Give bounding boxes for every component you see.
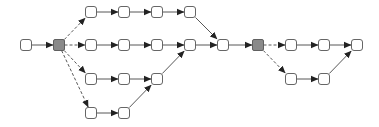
task-node-e3 (352, 40, 363, 51)
task-node-b1 (86, 40, 97, 51)
task-node-m1 (218, 40, 229, 51)
edges-layer (32, 12, 352, 113)
task-node-a1 (86, 7, 97, 18)
task-node-n0 (21, 40, 32, 51)
edge-d2-to-c3 (129, 85, 151, 108)
task-node-e2 (319, 40, 330, 51)
task-node-b3 (152, 40, 163, 51)
diagram-canvas (0, 0, 379, 127)
task-node-a3 (152, 7, 163, 18)
task-node-a4 (185, 7, 196, 18)
task-node-b4 (185, 40, 196, 51)
edge-c3-to-b4 (162, 51, 184, 74)
nodes-layer (21, 7, 363, 119)
edge-g2-to-f1 (263, 51, 285, 74)
task-node-d2 (119, 108, 130, 119)
process-graph (0, 0, 379, 127)
task-node-c1 (86, 74, 97, 85)
task-node-a2 (119, 7, 130, 18)
edge-f2-to-e3 (329, 51, 351, 74)
task-node-f1 (286, 74, 297, 85)
edge-a4-to-m1 (196, 18, 218, 40)
gateway-node-g2 (253, 40, 264, 51)
task-node-c2 (119, 74, 130, 85)
task-node-f2 (319, 74, 330, 85)
task-node-e1 (286, 40, 297, 51)
task-node-c3 (152, 74, 163, 85)
edge-g1-to-a1 (64, 18, 85, 40)
task-node-d1 (86, 108, 97, 119)
edge-g1-to-d1 (62, 51, 89, 108)
gateway-node-g1 (54, 40, 65, 51)
task-node-b2 (119, 40, 130, 51)
